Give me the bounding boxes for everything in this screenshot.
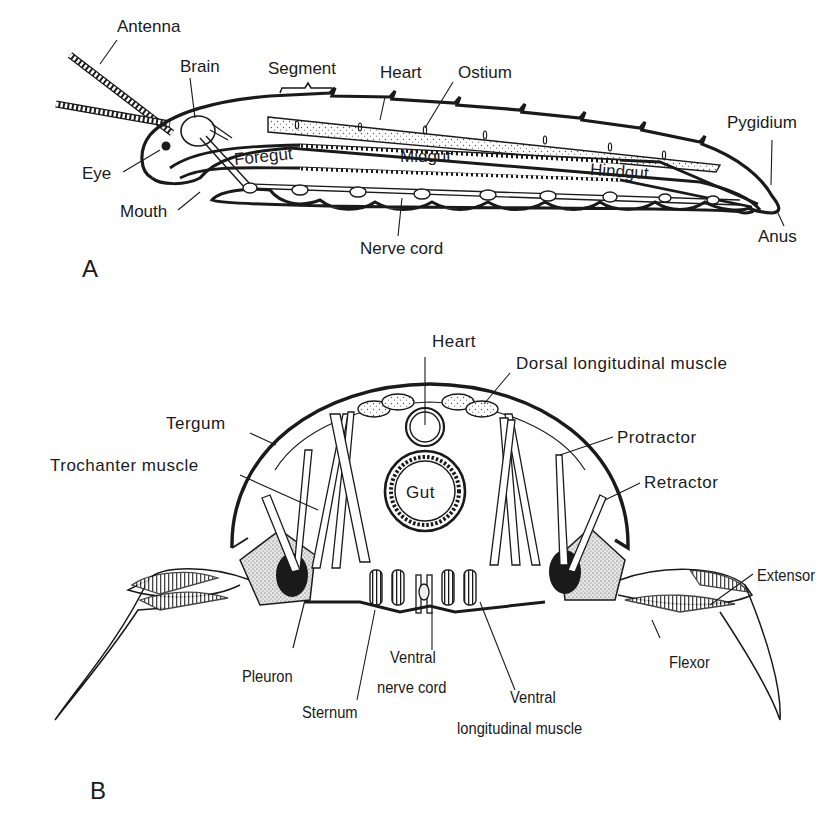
left-leg-drawing [55, 569, 250, 720]
label-segment: Segment [268, 60, 336, 77]
antenna-drawing [56, 55, 172, 133]
label-mouth: Mouth [120, 203, 167, 220]
label-anus: Anus [758, 228, 797, 245]
eye-drawing [162, 142, 171, 151]
panel-letter-a: A [82, 257, 98, 281]
panel-letter-b: B [90, 779, 106, 803]
label-tergum: Tergum [166, 415, 226, 432]
label-nerve-cord: Nerve cord [360, 240, 443, 257]
label-retractor: Retractor [644, 474, 718, 491]
dorsal-longitudinal-muscles [358, 394, 498, 417]
label-pleuron: Pleuron [242, 669, 293, 685]
label-gut: Gut [406, 484, 435, 501]
segment-brace [280, 83, 334, 93]
label-trochanter-muscle: Trochanter muscle [50, 457, 199, 474]
label-pygidium: Pygidium [727, 114, 797, 131]
label-ostium: Ostium [458, 64, 512, 81]
label-midgut: Midgut [400, 148, 451, 165]
label-ventral-nerve-cord-2: nerve cord [377, 680, 447, 696]
label-antenna: Antenna [117, 18, 180, 35]
right-leg-drawing [618, 569, 780, 720]
label-ventral-longitudinal-muscle-2: longitudinal muscle [457, 721, 582, 737]
sternum-line [305, 602, 545, 612]
brain-drawing [181, 116, 215, 146]
label-eye: Eye [82, 165, 111, 182]
label-protractor: Protractor [617, 429, 697, 446]
label-heart-a: Heart [380, 64, 422, 81]
label-heart-b: Heart [432, 333, 476, 350]
label-hindgut: Hindgut [589, 161, 649, 182]
label-flexor: Flexor [669, 655, 710, 671]
label-ventral-longitudinal-muscle-1: Ventral [510, 690, 556, 706]
label-brain: Brain [180, 58, 220, 75]
label-ventral-nerve-cord-1: Ventral [390, 650, 436, 666]
label-sternum: Sternum [302, 705, 358, 721]
label-dorsal-longitudinal-muscle: Dorsal longitudinal muscle [516, 355, 727, 372]
label-extensor: Extensor [757, 568, 815, 584]
